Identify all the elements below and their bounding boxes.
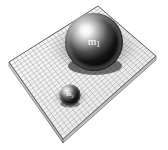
spacetime-figure: m1 m2 bbox=[0, 0, 168, 150]
mass-2-body: m2 bbox=[60, 85, 81, 108]
mass-1-body: m1 bbox=[65, 13, 123, 75]
spacetime-diagram-svg: m1 m2 bbox=[0, 0, 168, 150]
